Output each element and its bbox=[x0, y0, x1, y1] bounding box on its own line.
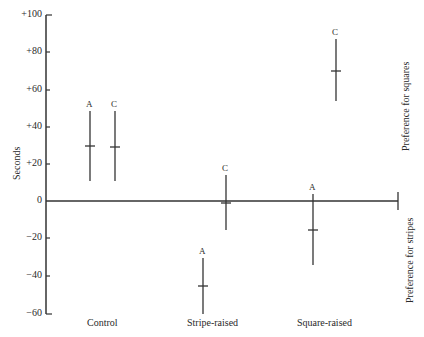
point-label-control-c: C bbox=[111, 99, 117, 109]
y-tick-label: +100 bbox=[6, 8, 42, 19]
annotation-preference-stripes: Preference for stripes bbox=[404, 217, 415, 303]
errorbar-control-a bbox=[85, 111, 95, 181]
y-tick-label: 0 bbox=[6, 194, 42, 205]
point-label-square-a: A bbox=[309, 182, 316, 192]
point-label-control-a: A bbox=[86, 99, 93, 109]
errorbar-control-c bbox=[110, 111, 120, 181]
y-tick-label: +80 bbox=[6, 45, 42, 56]
errorbar-square-c bbox=[331, 39, 341, 101]
category-label-square-raised: Square-raised bbox=[297, 317, 352, 328]
y-tick-label: −20 bbox=[6, 231, 42, 242]
errorbar-stripe-a bbox=[198, 258, 208, 314]
y-ticks bbox=[46, 15, 52, 314]
point-label-square-c: C bbox=[332, 27, 338, 37]
chart-canvas bbox=[0, 0, 424, 337]
y-axis-label: Seconds bbox=[11, 147, 22, 180]
errorbar-stripe-c bbox=[221, 175, 231, 230]
point-label-stripe-a: A bbox=[199, 246, 206, 256]
point-label-stripe-c: C bbox=[222, 163, 228, 173]
category-label-control: Control bbox=[87, 317, 118, 328]
y-tick-label: +60 bbox=[6, 83, 42, 94]
y-tick-label: −60 bbox=[6, 307, 42, 318]
category-label-stripe-raised: Stripe-raised bbox=[187, 317, 238, 328]
errorbar-square-a bbox=[308, 194, 318, 265]
y-tick-label: +40 bbox=[6, 120, 42, 131]
y-tick-label: −40 bbox=[6, 269, 42, 280]
annotation-preference-squares: Preference for squares bbox=[400, 62, 411, 151]
